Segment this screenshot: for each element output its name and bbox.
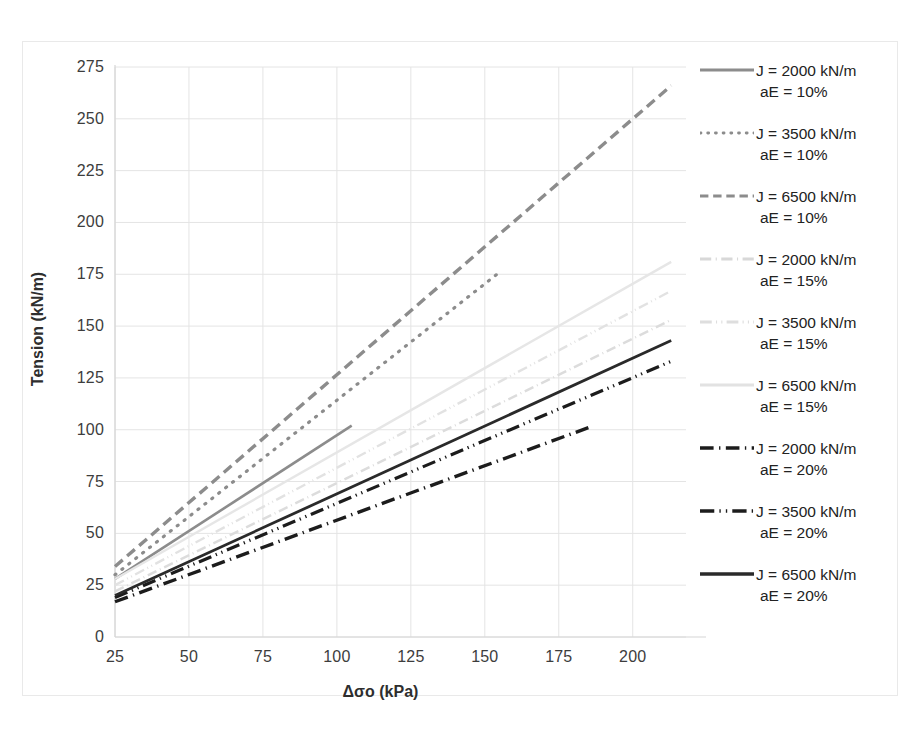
- legend-item[interactable]: J = 3500 kN/maE = 20%: [700, 501, 910, 545]
- y-axis-tick-labels: 0255075100125150175200225250275: [52, 0, 104, 740]
- legend-item[interactable]: J = 6500 kN/maE = 10%: [700, 186, 910, 230]
- legend-line-swatch-icon: [700, 439, 754, 459]
- gridlines: [115, 65, 706, 637]
- y-tick-label: 225: [56, 162, 104, 180]
- y-tick-label: 250: [56, 110, 104, 128]
- legend-label-line1: J = 2000 kN/m: [756, 60, 856, 81]
- legend-item[interactable]: J = 6500 kN/maE = 20%: [700, 564, 910, 608]
- y-tick-label: 75: [56, 473, 104, 491]
- x-tick-label: 50: [159, 648, 219, 666]
- x-tick-label: 150: [455, 648, 515, 666]
- legend-line-swatch-icon: [700, 565, 754, 585]
- y-tick-label: 150: [56, 317, 104, 335]
- y-tick-label: 125: [56, 369, 104, 387]
- chart-root: 0255075100125150175200225250275 25507510…: [0, 0, 921, 740]
- legend-label: J = 3500 kN/maE = 15%: [754, 312, 856, 354]
- x-tick-label: 100: [307, 648, 367, 666]
- legend-label: J = 3500 kN/maE = 20%: [754, 501, 856, 543]
- x-tick-label: 175: [529, 648, 589, 666]
- chart-legend: J = 2000 kN/maE = 10%J = 3500 kN/maE = 1…: [700, 60, 910, 627]
- x-tick-label: 25: [85, 648, 145, 666]
- legend-line-swatch-icon: [700, 376, 754, 396]
- x-axis-title: Δσo (kPa): [115, 683, 646, 701]
- series-line-2: [115, 272, 500, 575]
- legend-line-swatch-icon: [700, 313, 754, 333]
- y-tick-label: 200: [56, 213, 104, 231]
- legend-label-line2: aE = 15%: [756, 396, 856, 417]
- series-lines: [115, 86, 671, 602]
- y-tick-label: 100: [56, 421, 104, 439]
- legend-label-line1: J = 3500 kN/m: [756, 312, 856, 333]
- legend-line-swatch-icon: [700, 187, 754, 207]
- legend-label: J = 3500 kN/maE = 10%: [754, 123, 856, 165]
- legend-label-line2: aE = 10%: [756, 144, 856, 165]
- x-tick-label: 200: [603, 648, 663, 666]
- x-axis-tick-labels: 255075100125150175200: [0, 648, 921, 674]
- y-tick-label: 175: [56, 265, 104, 283]
- legend-label-line1: J = 6500 kN/m: [756, 186, 856, 207]
- x-tick-label: 125: [381, 648, 441, 666]
- legend-label: J = 6500 kN/maE = 20%: [754, 564, 856, 606]
- legend-line-swatch-icon: [700, 502, 754, 522]
- series-line-7: [115, 428, 588, 602]
- series-line-9: [115, 341, 671, 596]
- legend-label-line2: aE = 15%: [756, 333, 856, 354]
- legend-label-line1: J = 6500 kN/m: [756, 375, 856, 396]
- legend-line-swatch-icon: [700, 124, 754, 144]
- legend-item[interactable]: J = 3500 kN/maE = 15%: [700, 312, 910, 356]
- legend-item[interactable]: J = 2000 kN/maE = 10%: [700, 60, 910, 104]
- legend-label-line2: aE = 10%: [756, 207, 856, 228]
- y-tick-label: 275: [56, 58, 104, 76]
- legend-item[interactable]: J = 2000 kN/maE = 15%: [700, 249, 910, 293]
- legend-label-line1: J = 2000 kN/m: [756, 438, 856, 459]
- x-tick-label: 75: [233, 648, 293, 666]
- legend-line-swatch-icon: [700, 250, 754, 270]
- series-line-4: [115, 320, 671, 592]
- series-line-6: [115, 262, 671, 579]
- legend-label: J = 2000 kN/maE = 10%: [754, 60, 856, 102]
- y-tick-label: 0: [56, 628, 104, 646]
- legend-label: J = 2000 kN/maE = 15%: [754, 249, 856, 291]
- legend-item[interactable]: J = 3500 kN/maE = 10%: [700, 123, 910, 167]
- legend-label-line2: aE = 20%: [756, 522, 856, 543]
- series-line-5: [115, 291, 671, 585]
- series-line-8: [115, 361, 671, 597]
- legend-label-line2: aE = 10%: [756, 81, 856, 102]
- legend-label-line1: J = 6500 kN/m: [756, 564, 856, 585]
- y-tick-label: 50: [56, 524, 104, 542]
- legend-item[interactable]: J = 2000 kN/maE = 20%: [700, 438, 910, 482]
- legend-label-line2: aE = 15%: [756, 270, 856, 291]
- legend-item[interactable]: J = 6500 kN/maE = 15%: [700, 375, 910, 419]
- legend-label-line1: J = 3500 kN/m: [756, 501, 856, 522]
- legend-line-swatch-icon: [700, 61, 754, 81]
- legend-label-line1: J = 2000 kN/m: [756, 249, 856, 270]
- legend-label: J = 6500 kN/maE = 10%: [754, 186, 856, 228]
- legend-label: J = 2000 kN/maE = 20%: [754, 438, 856, 480]
- legend-label-line1: J = 3500 kN/m: [756, 123, 856, 144]
- y-axis-title: Tension (kN/m): [29, 229, 47, 429]
- legend-label: J = 6500 kN/maE = 15%: [754, 375, 856, 417]
- legend-label-line2: aE = 20%: [756, 459, 856, 480]
- legend-label-line2: aE = 20%: [756, 585, 856, 606]
- y-tick-label: 25: [56, 576, 104, 594]
